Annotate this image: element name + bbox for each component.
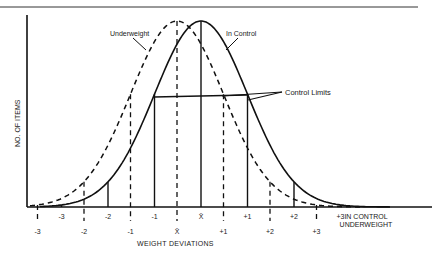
x-axis-label: WEIGHT DEVIATIONS [137, 240, 214, 247]
underweight-tick-label: +1 [220, 228, 228, 235]
in-control-leader [226, 38, 238, 50]
underweight-tick-label: -3 [34, 228, 40, 235]
in-control-curve [40, 21, 390, 207]
underweight-tick-label: -2 [81, 228, 87, 235]
underweight-tick-label: +3 [313, 228, 321, 235]
in-control-label: In Control [226, 30, 257, 37]
underweight-tick-label: +2 [266, 228, 274, 235]
underweight-curve [30, 21, 360, 207]
underweight-label: Underweight [110, 30, 149, 38]
control-limits-chart: Control Limits Underweight In Control NO… [0, 0, 432, 255]
underweight-leader [133, 38, 146, 50]
in-control-tick-label: +3 [337, 213, 345, 220]
row-label-underweight: UNDERWEIGHT [340, 221, 393, 228]
underweight-tick-label: X̄ [175, 228, 180, 235]
underweight-tick-label: -1 [127, 228, 133, 235]
sigma-lines [38, 21, 341, 221]
in-control-tick-label: -1 [151, 213, 157, 220]
in-control-tick-label: -3 [58, 213, 64, 220]
in-control-tick-label: X̄ [199, 213, 204, 220]
in-control-tick-labels: -3-2-1X̄+1+2+3 [58, 213, 344, 220]
in-control-tick-label: +2 [290, 213, 298, 220]
y-axis-label: NO. OF ITEMS [14, 99, 21, 147]
control-limits-label: Control Limits [285, 88, 331, 97]
row-label-in-control: IN CONTROL [344, 213, 387, 220]
underweight-tick-labels: -3-2-1X̄+1+2+3 [34, 228, 320, 235]
in-control-tick-label: -2 [105, 213, 111, 220]
in-control-tick-label: +1 [244, 213, 252, 220]
